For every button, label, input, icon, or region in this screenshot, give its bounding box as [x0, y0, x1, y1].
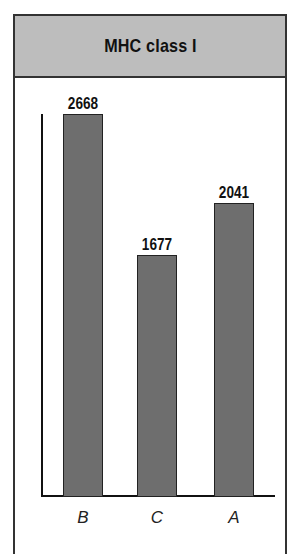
y-axis — [41, 114, 43, 497]
bar-b — [63, 114, 103, 497]
bar-a — [214, 203, 254, 497]
category-label-a: A — [214, 508, 254, 528]
value-label-c: 1677 — [132, 236, 183, 254]
bar-c — [137, 255, 177, 497]
value-label-b: 2668 — [58, 95, 109, 113]
category-label-c: C — [137, 508, 177, 528]
value-label-a: 2041 — [209, 184, 260, 202]
category-label-b: B — [63, 508, 103, 528]
